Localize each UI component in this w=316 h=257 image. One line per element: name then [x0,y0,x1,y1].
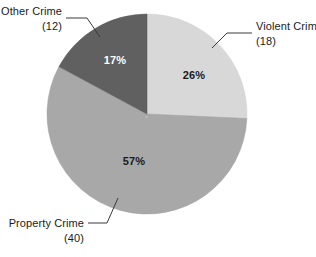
callout-count-property-crime: (40) [64,232,84,244]
slice-percent-violent-crime: 26% [183,69,205,81]
callout-count-violent-crime: (18) [256,35,276,47]
callout-property-crime: Property Crime (40) [9,198,118,244]
callout-violent-crime: Violent Crime (18) [212,20,316,48]
pie-chart-figure: 26% 57% 17% Violent Crime (18) Other Cri… [0,0,316,257]
pie-slice-violent-crime[interactable] [147,14,247,118]
pie-center-dot [145,116,148,119]
callout-other-crime: Other Crime (12) [1,5,100,37]
pie-slices-group [47,14,247,214]
slice-percent-property-crime: 57% [123,155,145,167]
pie-chart-canvas: 26% 57% 17% Violent Crime (18) Other Cri… [0,0,316,257]
callout-label-property-crime: Property Crime [9,217,84,229]
callout-count-other-crime: (12) [42,20,62,32]
callout-label-other-crime: Other Crime [1,5,62,17]
slice-percent-other-crime: 17% [104,54,126,66]
callout-label-violent-crime: Violent Crime [256,20,316,32]
